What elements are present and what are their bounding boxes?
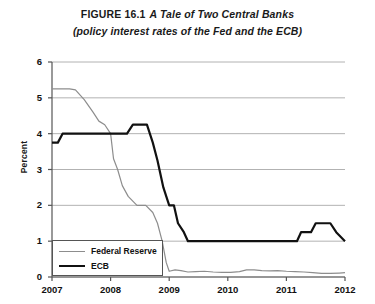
series-line-ecb	[52, 125, 345, 241]
legend-item-ecb: ECB	[59, 259, 109, 273]
x-tick-label-2007: 2007	[30, 284, 74, 295]
figure-container: FIGURE 16.1A Tale of Two Central Banks (…	[0, 0, 375, 304]
y-tick-label-0: 0	[26, 271, 42, 282]
y-tick-label-3: 3	[26, 164, 42, 175]
y-tick-label-2: 2	[26, 199, 42, 210]
y-tick-label-6: 6	[26, 56, 42, 67]
legend-item-federal-reserve: Federal Reserve	[59, 244, 157, 258]
legend-swatch-ecb	[59, 265, 85, 267]
y-tick-label-1: 1	[26, 235, 42, 246]
chart-legend: Federal Reserve ECB	[52, 240, 163, 276]
y-tick-label-5: 5	[26, 92, 42, 103]
x-tick-label-2009: 2009	[147, 284, 191, 295]
legend-swatch-federal-reserve	[59, 251, 85, 252]
x-tick-label-2008: 2008	[89, 284, 133, 295]
legend-label-ecb: ECB	[91, 261, 109, 271]
x-tick-label-2011: 2011	[264, 284, 308, 295]
y-tick-label-4: 4	[26, 128, 42, 139]
x-tick-label-2012: 2012	[323, 284, 367, 295]
x-tick-label-2010: 2010	[206, 284, 250, 295]
legend-label-federal-reserve: Federal Reserve	[91, 246, 157, 256]
